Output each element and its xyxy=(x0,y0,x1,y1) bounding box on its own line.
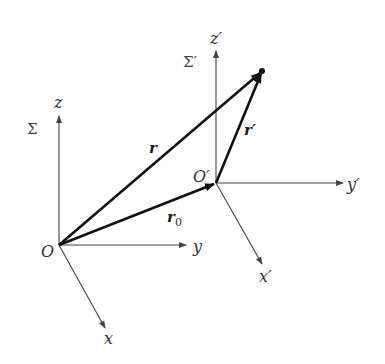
x-axis-label: x xyxy=(104,329,113,348)
vectors xyxy=(59,68,265,245)
y-axis-label: y xyxy=(192,237,203,256)
origin-o-prime-label: O′ xyxy=(193,167,210,186)
frame-sigma-label: Σ xyxy=(27,120,38,138)
frame-sigma-prime xyxy=(216,51,343,264)
frame-sigma-prime-label: Σ′ xyxy=(183,53,198,71)
x-axis xyxy=(59,245,105,328)
reference-frames-diagram: Σ z y x O Σ′ z′ y′ x′ O′ r r′ r0 xyxy=(0,0,385,364)
vector-r0 xyxy=(59,184,214,245)
x-prime-axis-label: x′ xyxy=(259,267,272,286)
z-axis-label: z xyxy=(53,93,63,112)
point-p xyxy=(259,68,265,74)
vector-r xyxy=(59,73,260,245)
vector-r-label: r xyxy=(149,139,158,157)
y-prime-axis-label: y′ xyxy=(346,175,360,194)
vector-r0-label: r0 xyxy=(167,208,182,229)
vector-r-prime-label: r′ xyxy=(244,121,256,139)
x-prime-axis xyxy=(216,183,262,264)
origin-o-label: O xyxy=(41,242,54,261)
vector-r0-subscript: 0 xyxy=(175,216,182,229)
z-prime-axis-label: z′ xyxy=(209,29,222,48)
